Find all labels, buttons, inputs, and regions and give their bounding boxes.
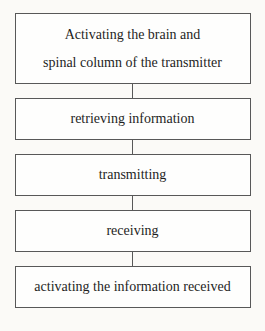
flow-box-text-line: activating the information received [34,273,230,300]
flowchart-page: Activating the brain and spinal column o… [0,0,265,331]
flowchart: Activating the brain and spinal column o… [0,13,265,308]
connector-line [132,196,133,210]
flow-box-transmitting: transmitting [15,154,251,196]
flow-box-activating-information-received: activating the information received [15,266,251,308]
flow-box-text-line: transmitting [99,161,167,188]
connector-line [132,84,133,98]
flow-box-text-line: retrieving information [70,105,194,132]
flow-box-text-line: spinal column of the transmitter [43,49,222,76]
flow-box-text-line: receiving [106,217,158,244]
connector-line [132,140,133,154]
connector-line [132,252,133,266]
flow-box-activating-transmitter: Activating the brain and spinal column o… [15,13,251,84]
flow-box-receiving: receiving [15,210,251,252]
flow-box-retrieving-information: retrieving information [15,98,251,140]
flow-box-text-line: Activating the brain and [65,21,201,48]
